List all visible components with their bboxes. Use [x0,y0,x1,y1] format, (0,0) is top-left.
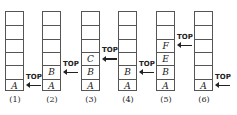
left-arrow-icon [29,85,41,87]
top-pointer-label: TOP [139,60,155,68]
stack-cell [119,52,136,65]
stack-cell [43,52,60,65]
stack-cell [195,52,212,65]
stack-2: BA [42,11,61,91]
stack-cell [157,25,174,38]
stack-label: (6) [191,95,217,104]
stack-cell [119,25,136,38]
stack-cell [119,39,136,52]
stack-cell [119,12,136,25]
stack-label: (2) [39,95,65,104]
stack-cell: A [119,79,136,92]
top-pointer-label: TOP [26,73,42,81]
stack-cell: B [157,65,174,78]
top-pointer-label: TOP [63,60,79,68]
stack-cell [6,39,23,52]
stack-cell: A [6,79,23,92]
stack-cell [195,39,212,52]
stack-cell: A [157,79,174,92]
stack-4: BA [118,11,137,91]
stack-cell: A [82,79,99,92]
left-arrow-icon [218,85,230,87]
stack-cell [82,39,99,52]
stack-cell: B [43,65,60,78]
stack-cell [43,12,60,25]
stack-cell [195,12,212,25]
left-arrow-icon [180,45,192,47]
stack-5: FEBA [156,11,175,91]
stack-cell [82,25,99,38]
stack-cell [43,25,60,38]
top-pointer-label: TOP [102,46,118,54]
stack-cell [195,65,212,78]
stack-label: (3) [78,95,104,104]
stack-cell: A [195,79,212,92]
stack-cell: A [43,79,60,92]
stack-cell [43,39,60,52]
stack-label: (5) [153,95,179,104]
stack-cell: E [157,52,174,65]
stack-cell: B [82,65,99,78]
stack-cell: C [82,52,99,65]
stack-label: (4) [115,95,141,104]
top-pointer-label: TOP [177,33,193,41]
stack-1: A [5,11,24,91]
stack-cell: F [157,39,174,52]
stack-cell [157,12,174,25]
left-arrow-icon [142,72,154,74]
stack-label: (1) [2,95,28,104]
left-arrow-icon [105,58,117,60]
stack-3: CBA [81,11,100,91]
stack-cell [6,65,23,78]
stack-6: A [194,11,213,91]
top-pointer-label: TOP [215,73,231,81]
stack-cell [195,25,212,38]
stack-cell [6,25,23,38]
stack-cell [6,12,23,25]
stack-cell [82,12,99,25]
left-arrow-icon [66,72,78,74]
stack-cell [6,52,23,65]
stack-cell: B [119,65,136,78]
